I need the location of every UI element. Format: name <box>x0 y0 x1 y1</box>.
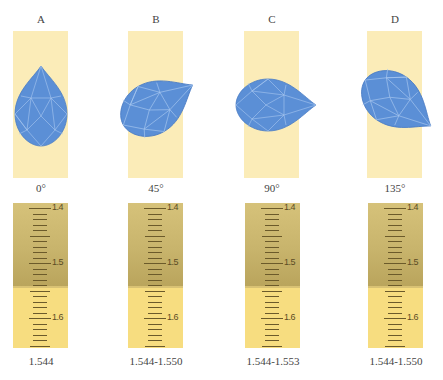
minor-tick <box>388 296 402 297</box>
minor-tick <box>33 285 47 286</box>
minor-tick <box>388 274 402 275</box>
shadow-edge-line <box>245 286 300 288</box>
minor-tick <box>265 280 279 281</box>
major-tick <box>384 263 406 264</box>
minor-tick <box>388 214 402 215</box>
refractometer-scale: 1.41.51.6 <box>128 203 183 348</box>
minor-tick <box>33 247 47 248</box>
major-tick <box>261 208 283 209</box>
minor-tick <box>148 340 162 341</box>
minor-tick <box>388 285 402 286</box>
minor-tick <box>30 291 50 292</box>
ri-reading: 1.544 <box>0 355 96 367</box>
scale-number: 1.5 <box>284 257 295 267</box>
rotation-angle-label: 45° <box>128 182 184 194</box>
shadow-edge-line <box>368 286 423 288</box>
minor-tick <box>148 335 162 336</box>
minor-tick <box>148 241 162 242</box>
minor-tick <box>148 302 162 303</box>
minor-tick <box>33 241 47 242</box>
minor-tick <box>148 274 162 275</box>
minor-tick <box>148 258 162 259</box>
minor-tick <box>33 214 47 215</box>
minor-tick <box>148 285 162 286</box>
minor-tick <box>33 225 47 226</box>
major-tick <box>29 263 51 264</box>
minor-tick <box>388 252 402 253</box>
scale-number: 1.6 <box>52 312 63 322</box>
rotation-angle-label: 0° <box>13 182 69 194</box>
scale-number: 1.5 <box>52 257 63 267</box>
minor-tick <box>33 313 47 314</box>
ri-reading: 1.544-1.550 <box>101 355 211 367</box>
minor-tick <box>265 329 279 330</box>
minor-tick <box>33 274 47 275</box>
refractometer-scale: 1.41.51.6 <box>368 203 423 348</box>
minor-tick <box>265 335 279 336</box>
rotation-angle-label: 135° <box>367 182 423 194</box>
minor-tick <box>33 252 47 253</box>
minor-tick <box>388 225 402 226</box>
scale-number: 1.5 <box>407 257 418 267</box>
minor-tick <box>388 307 402 308</box>
minor-tick <box>388 247 402 248</box>
pear-gem-icon <box>128 31 183 178</box>
minor-tick <box>265 252 279 253</box>
major-tick <box>384 318 406 319</box>
scale-number: 1.4 <box>52 203 63 212</box>
minor-tick <box>265 324 279 325</box>
panel-letter: A <box>13 13 69 25</box>
minor-tick <box>33 324 47 325</box>
major-tick <box>384 208 406 209</box>
minor-tick <box>385 291 405 292</box>
minor-tick <box>33 302 47 303</box>
refractometer-scale: 1.41.51.6 <box>245 203 300 348</box>
minor-tick <box>265 241 279 242</box>
minor-tick <box>33 340 47 341</box>
minor-tick <box>265 296 279 297</box>
minor-tick <box>388 340 402 341</box>
minor-tick <box>148 280 162 281</box>
minor-tick <box>148 296 162 297</box>
minor-tick <box>265 225 279 226</box>
minor-tick <box>265 258 279 259</box>
ri-reading: 1.544-1.550 <box>341 355 443 367</box>
minor-tick <box>30 346 50 347</box>
minor-tick <box>385 346 405 347</box>
major-tick <box>261 318 283 319</box>
minor-tick <box>148 269 162 270</box>
scale-number: 1.4 <box>284 203 295 212</box>
minor-tick <box>265 274 279 275</box>
minor-tick <box>148 230 162 231</box>
minor-tick <box>33 219 47 220</box>
panel-letter: D <box>367 13 423 25</box>
shadow-edge-line <box>128 286 183 288</box>
scale-number: 1.5 <box>167 257 178 267</box>
minor-tick <box>262 346 282 347</box>
minor-tick <box>33 296 47 297</box>
minor-tick <box>262 291 282 292</box>
minor-tick <box>265 269 279 270</box>
minor-tick <box>33 230 47 231</box>
minor-tick <box>148 307 162 308</box>
minor-tick <box>388 219 402 220</box>
scale-number: 1.6 <box>167 312 178 322</box>
pear-gem-icon <box>244 31 299 178</box>
minor-tick <box>388 302 402 303</box>
pear-gem-icon <box>13 31 68 178</box>
minor-tick <box>148 329 162 330</box>
scale-number: 1.4 <box>167 203 178 212</box>
minor-tick <box>30 236 50 237</box>
minor-tick <box>265 285 279 286</box>
gem-panel <box>128 31 183 178</box>
panel-letter: C <box>244 13 300 25</box>
minor-tick <box>265 307 279 308</box>
major-tick <box>144 318 166 319</box>
minor-tick <box>265 340 279 341</box>
minor-tick <box>148 214 162 215</box>
minor-tick <box>148 252 162 253</box>
minor-tick <box>388 280 402 281</box>
scale-number: 1.6 <box>284 312 295 322</box>
major-tick <box>261 263 283 264</box>
shadow-edge-line <box>13 286 68 288</box>
